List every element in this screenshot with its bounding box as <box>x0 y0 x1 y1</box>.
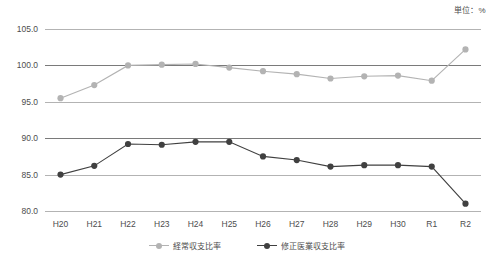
legend-label: 経常収支比率 <box>173 240 221 251</box>
y-axis-labels: 105.0100.095.090.085.080.0 <box>0 0 45 258</box>
data-point <box>327 75 333 81</box>
data-point <box>395 162 401 168</box>
x-tick-label-h26: H26 <box>255 219 271 229</box>
x-axis-labels: H20H21H22H23H24H25H26H27H28H29H30R1R2 <box>45 219 481 233</box>
x-tick-label-h23: H23 <box>154 219 170 229</box>
data-point <box>125 141 131 147</box>
data-point <box>57 172 63 178</box>
line-chart: 単位：% 105.0100.095.090.085.080.0 H20H21H2… <box>0 0 494 258</box>
x-tick-label-h30: H30 <box>390 219 406 229</box>
data-point <box>462 46 468 52</box>
y-tick-label: 100.0 <box>0 60 38 70</box>
data-point <box>159 62 165 68</box>
x-tick-label-h25: H25 <box>222 219 238 229</box>
data-point <box>462 201 468 207</box>
x-tick-label-h27: H27 <box>289 219 305 229</box>
data-point <box>57 95 63 101</box>
data-point <box>125 62 131 68</box>
data-point <box>260 68 266 74</box>
y-tick-label: 85.0 <box>0 170 38 180</box>
data-point <box>192 139 198 145</box>
x-tick-label-h20: H20 <box>53 219 69 229</box>
x-tick-label-r2: R2 <box>460 219 471 229</box>
legend-item[interactable]: 経常収支比率 <box>149 240 221 251</box>
data-point <box>159 142 165 148</box>
data-point <box>429 78 435 84</box>
data-point <box>395 72 401 78</box>
series-layer <box>45 29 481 211</box>
legend-label: 修正医業収支比率 <box>281 240 345 251</box>
gridline-80 <box>45 211 481 212</box>
series-line <box>61 142 466 204</box>
data-point <box>327 163 333 169</box>
y-tick-label: 90.0 <box>0 133 38 143</box>
unit-label: 単位：% <box>454 4 486 15</box>
data-point <box>429 163 435 169</box>
x-tick-label-h21: H21 <box>87 219 103 229</box>
y-tick-label: 80.0 <box>0 206 38 216</box>
series-修正医業収支比率 <box>57 139 468 207</box>
x-tick-label-h29: H29 <box>356 219 372 229</box>
data-point <box>91 163 97 169</box>
x-tick-label-r1: R1 <box>426 219 437 229</box>
x-tick-label-h24: H24 <box>188 219 204 229</box>
x-tick-label-h28: H28 <box>323 219 339 229</box>
legend-marker-icon <box>149 241 169 250</box>
data-point <box>226 139 232 145</box>
legend-item[interactable]: 修正医業収支比率 <box>257 240 345 251</box>
y-tick-label: 105.0 <box>0 24 38 34</box>
data-point <box>226 64 232 70</box>
legend-marker-icon <box>257 241 277 250</box>
data-point <box>294 71 300 77</box>
y-tick-label: 95.0 <box>0 97 38 107</box>
data-point <box>361 73 367 79</box>
chart-legend: 経常収支比率修正医業収支比率 <box>0 240 494 251</box>
plot-area <box>45 29 481 211</box>
data-point <box>361 162 367 168</box>
data-point <box>260 153 266 159</box>
data-point <box>192 61 198 67</box>
series-経常収支比率 <box>57 46 468 101</box>
x-tick-label-h22: H22 <box>120 219 136 229</box>
data-point <box>294 157 300 163</box>
data-point <box>91 82 97 88</box>
